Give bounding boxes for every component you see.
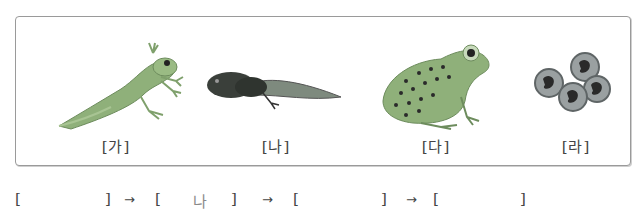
tadpole-icon [201,31,351,131]
figure-item-na: [나] [201,17,351,165]
open-bracket: [ [293,190,299,208]
open-bracket: [ [15,190,21,208]
froglet-icon [41,31,191,131]
open-bracket: [ [433,190,439,208]
arrow-icon: → [124,192,135,207]
close-bracket: ] [381,190,387,208]
close-bracket: ] [105,190,111,208]
adult-frog-icon [361,31,511,131]
figure-box: [가] [나] [다] [15,16,631,166]
figure-label-da: [다] [361,135,511,156]
figure-item-da: [다] [361,17,511,165]
frog-eggs-icon [501,31,641,131]
figure-label-ga: [가] [41,135,191,156]
answer-slot-2[interactable]: 나 [175,190,225,211]
figure-label-na: [나] [201,135,351,156]
answer-sequence: [ ] → [ 나 ] → [ ] → [ ] [0,190,641,212]
arrow-icon: → [406,192,417,207]
open-bracket: [ [155,190,161,208]
close-bracket: ] [231,190,237,208]
figure-item-ga: [가] [41,17,191,165]
figure-label-ra: [라] [501,135,641,156]
close-bracket: ] [520,190,526,208]
figure-item-ra: [라] [501,17,641,165]
arrow-icon: → [262,192,273,207]
